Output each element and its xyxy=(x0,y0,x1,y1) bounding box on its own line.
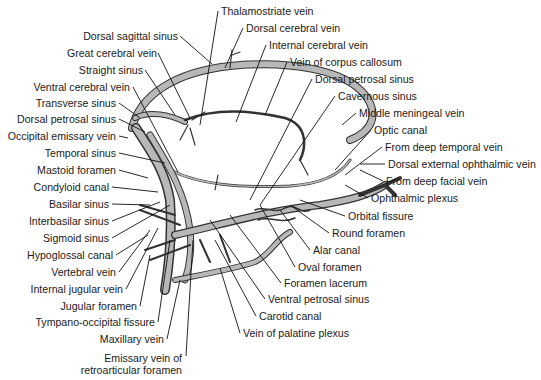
label-ventral-petrosal-sinus: Ventral petrosal sinus xyxy=(268,293,369,305)
label-internal-jugular-vein: Internal jugular vein xyxy=(31,283,123,295)
label-round-foramen: Round foramen xyxy=(332,227,405,239)
label-basilar-sinus: Basilar sinus xyxy=(49,198,109,210)
label-emissary-vein-of: Emissary vein of xyxy=(104,352,182,364)
label-from-deep-facial-vein: From deep facial vein xyxy=(386,175,487,187)
label-retroarticular-foramen: retroarticular foramen xyxy=(81,364,182,376)
label-foramen-lacerum: Foramen lacerum xyxy=(284,277,367,289)
label-from-deep-temporal-vein: From deep temporal vein xyxy=(385,141,503,153)
label-temporal-sinus: Temporal sinus xyxy=(45,147,116,159)
label-great-cerebral-vein: Great cerebral vein xyxy=(67,47,157,59)
label-tympano-occipital-fissure: Tympano-occipital fissure xyxy=(35,316,155,328)
label-straight-sinus: Straight sinus xyxy=(79,64,143,76)
label-sigmoid-sinus: Sigmoid sinus xyxy=(43,232,109,244)
label-vein-of-palatine-plexus: Vein of palatine plexus xyxy=(243,327,349,339)
label-condyloid-canal: Condyloid canal xyxy=(34,181,109,193)
label-dorsal-external-ophthalmic-vein: Dorsal external ophthalmic vein xyxy=(388,158,536,170)
label-mastoid-foramen: Mastoid foramen xyxy=(37,164,116,176)
label-carotid-canal: Carotid canal xyxy=(259,310,321,322)
label-thalamostriate-vein: Thalamostriate vein xyxy=(221,5,313,17)
label-maxillary-vein: Maxillary vein xyxy=(100,333,164,345)
label-orbital-fissure: Orbital fissure xyxy=(348,210,413,222)
label-interbasilar-sinus: Interbasilar sinus xyxy=(29,215,109,227)
label-middle-meningeal-vein: Middle meningeal vein xyxy=(359,107,464,119)
label-dorsal-sagittal-sinus: Dorsal sagittal sinus xyxy=(83,30,178,42)
label-vein-of-corpus-callosum: Vein of corpus callosum xyxy=(290,56,402,68)
label-ventral-cerebral-vein: Ventral cerebral vein xyxy=(33,81,130,93)
label-transverse-sinus: Transverse sinus xyxy=(36,97,116,109)
label-optic-canal: Optic canal xyxy=(374,124,427,136)
label-dorsal-cerebral-vein: Dorsal cerebral vein xyxy=(246,22,340,34)
label-dorsal-petrosal-sinus-left: Dorsal petrosal sinus xyxy=(17,113,116,125)
label-cavernous-sinus: Cavernous sinus xyxy=(338,90,417,102)
venous-sinus-diagram: .v{fill:none;stroke:#333;stroke-linecap:… xyxy=(0,0,541,380)
label-ophthalmic-plexus: Ophthalmic plexus xyxy=(371,192,458,204)
label-dorsal-petrosal-sinus-right: Dorsal petrosal sinus xyxy=(315,73,414,85)
label-vertebral-vein: Vertebral vein xyxy=(51,266,116,278)
label-hypoglossal-canal: Hypoglossal canal xyxy=(27,249,113,261)
label-internal-cerebral-vein: Internal cerebral vein xyxy=(269,39,368,51)
label-jugular-foramen: Jugular foramen xyxy=(60,300,137,312)
label-alar-canal: Alar canal xyxy=(313,244,360,256)
label-oval-foramen: Oval foramen xyxy=(298,261,362,273)
label-occipital-emissary-vein: Occipital emissary vein xyxy=(8,130,116,142)
